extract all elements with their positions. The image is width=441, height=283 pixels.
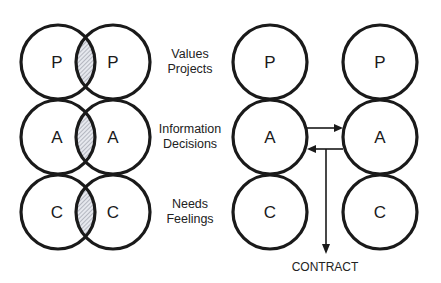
left-p-label-1: P [51, 53, 62, 72]
right-c-label-1: C [264, 203, 276, 222]
right-a-label-1: A [264, 128, 276, 147]
arrow-down-icon [322, 149, 330, 254]
left-a-label-1: A [51, 128, 63, 147]
label-needs: Needs [172, 197, 208, 211]
pac-diagram: P P A A C C Values Projects Information … [0, 0, 441, 283]
middle-labels: Values Projects Information Decisions Ne… [159, 47, 222, 226]
left-p-label-2: P [107, 53, 118, 72]
right-p-label-2: P [374, 53, 385, 72]
label-information: Information [159, 122, 222, 136]
arrow-right-icon [307, 124, 343, 132]
right-diagram: P A C P A C CONTRACT [233, 25, 417, 274]
left-c-label-1: C [51, 203, 63, 222]
left-c-label-2: C [107, 203, 119, 222]
contract-label: CONTRACT [292, 260, 359, 274]
label-projects: Projects [167, 62, 212, 76]
label-values: Values [171, 47, 208, 61]
right-p-label-1: P [264, 53, 275, 72]
arrow-left-icon [307, 145, 343, 153]
label-decisions: Decisions [163, 137, 217, 151]
left-a-label-2: A [107, 128, 119, 147]
label-feelings: Feelings [166, 212, 213, 226]
left-diagram: P P A A C C [21, 25, 150, 249]
right-c-label-2: C [374, 203, 386, 222]
right-a-label-2: A [374, 128, 386, 147]
